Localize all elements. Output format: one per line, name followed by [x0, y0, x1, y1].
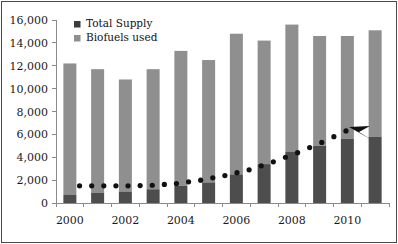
y-axis-tick-label: 2,000 — [17, 174, 49, 187]
trend-line-dot — [150, 183, 155, 188]
bar-segment-total-supply — [91, 193, 104, 203]
trend-line-dot — [101, 183, 106, 188]
bar-stack — [285, 25, 298, 203]
bar-stack — [91, 69, 104, 203]
bar-stack — [258, 41, 271, 203]
y-axis-tick-label: 0 — [41, 197, 48, 210]
x-axis-tick-label: 2000 — [56, 214, 84, 227]
bar-segment-total-supply — [341, 139, 354, 203]
y-axis-tick-label: 8,000 — [17, 106, 49, 119]
trend-line-dot — [198, 178, 203, 183]
stacked-bar-chart: 16,00014,00012,00010,0008,0006,0004,0002… — [0, 0, 398, 244]
bar-segment-total-supply — [63, 195, 76, 203]
trend-line-dot — [331, 134, 336, 139]
bar-segment-total-supply — [230, 174, 243, 203]
trend-line-dot — [234, 170, 239, 175]
chart-background — [0, 0, 398, 244]
bar-segment-total-supply — [147, 189, 160, 203]
bar-stack — [313, 36, 326, 203]
bar-segment-biofuels-used — [369, 30, 382, 136]
bar-segment-total-supply — [202, 182, 215, 203]
bar-segment-biofuels-used — [341, 36, 354, 139]
y-axis-tick-label: 4,000 — [17, 151, 49, 164]
bar-stack — [341, 36, 354, 203]
trend-line-dot — [89, 183, 94, 188]
bar-segment-total-supply — [258, 164, 271, 203]
bar-stack — [369, 30, 382, 203]
bar-segment-biofuels-used — [91, 69, 104, 193]
x-axis-tick-label: 2006 — [222, 214, 250, 227]
x-axis-tick-label: 2010 — [333, 214, 361, 227]
legend-label: Total Supply — [86, 17, 152, 29]
trend-line-dot — [319, 140, 324, 145]
trend-line-dot — [113, 183, 118, 188]
trend-line-dot — [125, 183, 130, 188]
bar-segment-total-supply — [174, 186, 187, 203]
bar-stack — [230, 34, 243, 203]
trend-line-dot — [283, 155, 288, 160]
bar-segment-total-supply — [119, 192, 132, 203]
bar-segment-biofuels-used — [119, 79, 132, 191]
bar-segment-biofuels-used — [202, 60, 215, 182]
trend-line-dot — [210, 175, 215, 180]
legend-swatch — [74, 21, 81, 28]
trend-line-dot — [247, 167, 252, 172]
bar-segment-total-supply — [369, 137, 382, 203]
bar-segment-total-supply — [313, 146, 326, 203]
y-axis-tick-label: 10,000 — [10, 83, 49, 96]
bar-segment-biofuels-used — [230, 34, 243, 175]
trend-line-dot — [174, 181, 179, 186]
legend-swatch — [74, 35, 81, 42]
bar-stack — [174, 51, 187, 203]
bar-segment-biofuels-used — [63, 63, 76, 195]
legend-label: Biofuels used — [86, 31, 158, 43]
bar-segment-biofuels-used — [258, 41, 271, 165]
trend-line-dot — [162, 182, 167, 187]
trend-line-dot — [138, 183, 143, 188]
trend-line-dot — [186, 179, 191, 184]
y-axis-tick-label: 6,000 — [17, 128, 49, 141]
bar-segment-biofuels-used — [147, 69, 160, 189]
trend-line-dot — [343, 128, 348, 133]
y-axis-tick-label: 12,000 — [10, 60, 49, 73]
x-axis-tick-label: 2002 — [111, 214, 139, 227]
trend-line-dot — [271, 159, 276, 164]
x-axis-tick-label: 2008 — [278, 214, 306, 227]
y-axis-tick-label: 14,000 — [10, 37, 49, 50]
trend-line-dot — [295, 150, 300, 155]
legend-item: Biofuels used — [74, 31, 158, 43]
legend-item: Total Supply — [74, 17, 152, 29]
x-axis-tick-label: 2004 — [167, 214, 195, 227]
bar-stack — [202, 60, 215, 203]
trend-line-dot — [307, 145, 312, 150]
bar-segment-biofuels-used — [285, 25, 298, 152]
chart-container: 16,00014,00012,00010,0008,0006,0004,0002… — [0, 0, 398, 244]
bar-segment-total-supply — [285, 152, 298, 203]
y-axis-tick-label: 16,000 — [10, 14, 49, 27]
bar-stack — [63, 63, 76, 203]
trend-line-dot — [222, 173, 227, 178]
bar-segment-biofuels-used — [313, 36, 326, 146]
trend-line-dot — [77, 183, 82, 188]
bar-segment-biofuels-used — [174, 51, 187, 186]
trend-line-dot — [259, 163, 264, 168]
